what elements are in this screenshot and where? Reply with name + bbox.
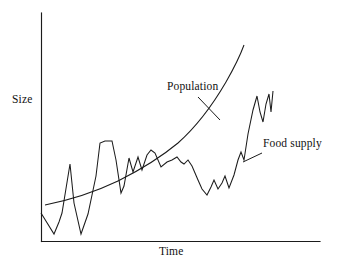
chart-figure: Size Time Population Food supply (0, 0, 340, 267)
series-line-food-supply (41, 91, 273, 234)
population-series-label: Population (167, 81, 218, 93)
chart-plot-area (0, 0, 340, 267)
population-leader-line (198, 97, 220, 120)
y-axis-label: Size (12, 94, 32, 106)
food-supply-leader-line (243, 153, 262, 162)
x-axis-label: Time (159, 246, 183, 258)
food-supply-series-label: Food supply (263, 138, 322, 150)
